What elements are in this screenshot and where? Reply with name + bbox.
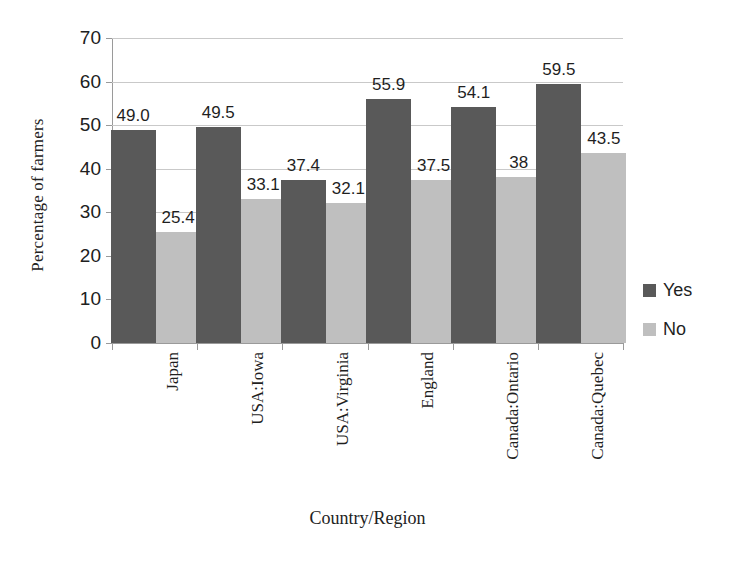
gridline [112, 38, 623, 39]
bar-yes-canada-ontario [451, 107, 496, 343]
bar-value-label: 59.5 [542, 60, 575, 80]
y-tick-mark [106, 82, 112, 83]
bar-yes-usa-iowa [196, 127, 241, 343]
x-category-label: Canada:Ontario [503, 352, 523, 460]
bar-no-england [411, 180, 456, 343]
legend-swatch-icon [643, 284, 656, 297]
bar-value-label: 25.4 [162, 208, 195, 228]
bar-yes-canada-quebec [536, 84, 581, 343]
legend-item-no[interactable]: No [643, 319, 692, 340]
x-axis-title: Country/Region [112, 508, 623, 529]
bar-value-label: 54.1 [457, 83, 490, 103]
y-tick-mark [106, 38, 112, 39]
bar-yes-japan [111, 130, 156, 344]
x-category-label: Japan [163, 352, 183, 391]
y-tick-label: 20 [80, 245, 101, 267]
y-axis-title: Percentage of farmers [28, 75, 48, 315]
bar-value-label: 49.5 [202, 103, 235, 123]
bar-value-label: 38 [509, 153, 528, 173]
legend-label: Yes [663, 280, 692, 301]
x-category-label: England [418, 352, 438, 409]
x-category-label: USA:Iowa [248, 352, 268, 425]
bar-value-label: 33.1 [247, 175, 280, 195]
x-category-label: USA:Virginia [333, 352, 353, 446]
bar-chart: Percentage of farmers 01020304050607049.… [0, 0, 729, 561]
y-tick-label: 50 [80, 114, 101, 136]
bar-value-label: 37.4 [287, 156, 320, 176]
bar-value-label: 55.9 [372, 75, 405, 95]
bar-yes-england [366, 99, 411, 343]
bar-value-label: 49.0 [117, 106, 150, 126]
bar-no-usa-virginia [326, 203, 371, 343]
x-tick-mark [282, 343, 283, 350]
bar-no-canada-ontario [496, 177, 541, 343]
y-tick-label: 40 [80, 158, 101, 180]
gridline [112, 82, 623, 83]
y-tick-label: 10 [80, 288, 101, 310]
y-tick-mark [106, 125, 112, 126]
y-tick-label: 70 [80, 27, 101, 49]
y-tick-label: 0 [90, 332, 101, 354]
bar-no-canada-quebec [581, 153, 626, 343]
legend-swatch-icon [643, 323, 656, 336]
bar-value-label: 32.1 [332, 179, 365, 199]
bar-value-label: 37.5 [417, 156, 450, 176]
legend-label: No [663, 319, 686, 340]
y-tick-label: 60 [80, 71, 101, 93]
bar-value-label: 43.5 [587, 129, 620, 149]
chart-legend: YesNo [643, 280, 692, 358]
x-tick-mark [453, 343, 454, 350]
bar-yes-usa-virginia [281, 180, 326, 343]
plot-area: 01020304050607049.025.4Japan49.533.1USA:… [112, 38, 623, 343]
y-tick-label: 30 [80, 201, 101, 223]
x-tick-mark [623, 343, 624, 350]
x-tick-mark [112, 343, 113, 350]
x-tick-mark [538, 343, 539, 350]
bar-no-usa-iowa [241, 199, 286, 343]
x-tick-mark [368, 343, 369, 350]
x-category-label: Canada:Quebec [588, 352, 608, 460]
x-tick-mark [197, 343, 198, 350]
bar-no-japan [156, 232, 201, 343]
legend-item-yes[interactable]: Yes [643, 280, 692, 301]
